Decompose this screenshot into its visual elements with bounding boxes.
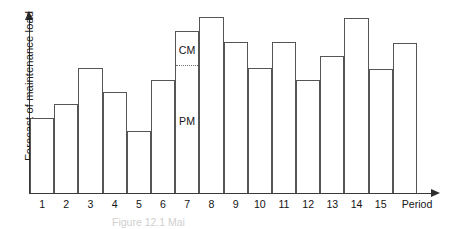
bar [296, 80, 320, 193]
pm-segment-label: PM [176, 115, 198, 127]
x-tick-label: 10 [248, 198, 272, 210]
x-axis-title: Period [385, 198, 449, 210]
bar [103, 92, 127, 193]
plot-area: CMPM [30, 13, 417, 193]
bar [199, 17, 223, 193]
x-tick-label: 6 [151, 198, 175, 210]
bar [54, 104, 78, 193]
bar [224, 42, 248, 193]
cm-pm-divider [176, 65, 198, 66]
bar [78, 68, 102, 193]
bar [272, 42, 296, 193]
x-tick-label: 13 [320, 198, 344, 210]
x-tick-label: 3 [78, 198, 102, 210]
bar [369, 69, 393, 193]
cm-segment-label: CM [176, 44, 198, 56]
chart-figure: Forecast of maintenance load CMPM 123456… [0, 0, 452, 229]
x-tick-label: 5 [127, 198, 151, 210]
x-tick-label: 11 [272, 198, 296, 210]
bar [30, 118, 54, 193]
figure-caption: Figure 12.1 Mai [112, 216, 342, 228]
bar [344, 18, 368, 193]
bar [320, 56, 344, 193]
bar [248, 68, 272, 193]
x-tick-label: 2 [54, 198, 78, 210]
x-tick-label: 4 [103, 198, 127, 210]
bar [127, 131, 151, 193]
bar [393, 43, 417, 193]
x-tick-label: 7 [175, 198, 199, 210]
x-tick-label: 12 [296, 198, 320, 210]
arrow-right-icon [431, 189, 440, 197]
bar: CMPM [175, 31, 199, 193]
x-tick-label: 9 [224, 198, 248, 210]
bar [151, 80, 175, 193]
x-tick-label: 8 [199, 198, 223, 210]
x-tick-label: 1 [30, 198, 54, 210]
x-tick-label: 14 [344, 198, 368, 210]
